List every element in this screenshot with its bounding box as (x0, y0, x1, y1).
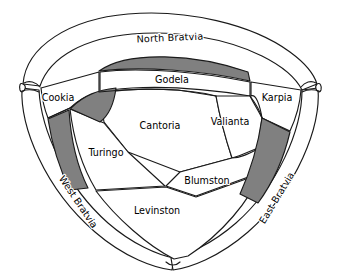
map-svg: North Bratvia Godela Cookia Karpia Canto… (0, 0, 341, 276)
label-turingo: Turingo (87, 147, 123, 158)
map-figure: North Bratvia Godela Cookia Karpia Canto… (0, 0, 341, 276)
label-cookia: Cookia (42, 92, 75, 103)
label-levinston: Levinston (134, 205, 180, 216)
label-karpia: Karpia (262, 92, 293, 103)
label-cantoria: Cantoria (140, 120, 181, 131)
label-north-bratvia: North Bratvia (136, 31, 203, 45)
label-valianta: Valianta (211, 116, 250, 127)
label-godela: Godela (155, 74, 189, 85)
label-blumston: Blumston (184, 175, 229, 186)
